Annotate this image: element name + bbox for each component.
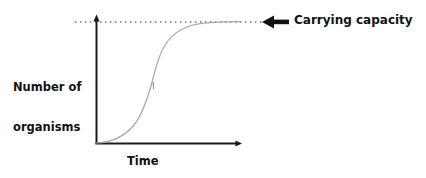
x-axis-label: Time [127, 155, 159, 168]
left-arrow-icon [262, 15, 289, 28]
y-axis-label-line-1: Number of [13, 81, 81, 94]
logistic-growth-curve [97, 22, 241, 143]
carrying-capacity-label: Carrying capacity [294, 14, 413, 28]
y-axis-label: Number of organisms [13, 55, 81, 161]
y-axis-label-line-2: organisms [13, 121, 81, 134]
x-axis-arrowhead-icon [236, 140, 243, 146]
logistic-growth-figure: Number of organisms Time Carrying capaci… [0, 0, 426, 178]
y-axis-arrowhead-icon [93, 15, 99, 22]
